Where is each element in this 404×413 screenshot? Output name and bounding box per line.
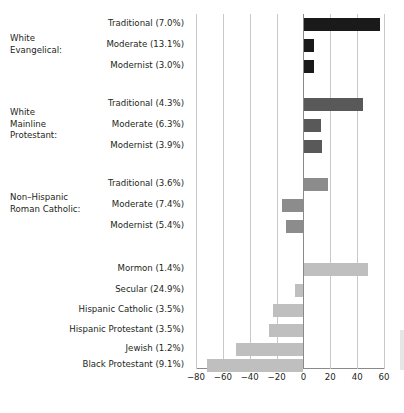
row-label: Modernist (5.4%) [110,220,184,231]
gridline [357,14,358,369]
row-label: Jewish (1.2%) [126,343,184,354]
x-tick-label: −60 [208,372,238,382]
row-label-column: Traditional (7.0%)Moderate (13.1%)Modern… [0,0,192,413]
bar [303,18,380,31]
row-label: Moderate (7.4%) [112,199,184,210]
x-tick-label: 20 [315,372,345,382]
bar [303,39,314,52]
gridline [250,14,251,369]
row-label: Hispanic Catholic (3.5%) [79,304,184,315]
bar [282,199,303,212]
row-label: Secular (24.9%) [115,284,184,295]
bar [273,304,304,317]
x-tick-label: 0 [288,372,318,382]
gridline [330,14,331,369]
bar [269,324,304,337]
scroll-edge-artifact [400,330,404,370]
row-label: Moderate (13.1%) [106,39,184,50]
zero-gridline [303,14,304,369]
gridline [196,14,197,369]
bar [207,359,304,372]
x-tick-label: 40 [342,372,372,382]
gridline [223,14,224,369]
bar-chart: WhiteEvangelical:WhiteMainlineProtestant… [0,0,404,413]
bar [303,178,327,191]
row-label: Hispanic Protestant (3.5%) [69,324,184,335]
row-label: Black Protestant (9.1%) [83,359,184,370]
bar [295,284,303,297]
row-label: Traditional (4.3%) [108,98,184,109]
x-tick-label: −40 [235,372,265,382]
row-label: Traditional (3.6%) [108,178,184,189]
row-label: Moderate (6.3%) [112,119,184,130]
bar [303,60,314,73]
row-label: Modernist (3.0%) [110,60,184,71]
row-label: Traditional (7.0%) [108,18,184,29]
bar [236,343,303,356]
x-tick-label: 60 [369,372,399,382]
row-label: Modernist (3.9%) [110,140,184,151]
bar [303,119,320,132]
bar [303,98,362,111]
bar [286,220,303,233]
plot-area [196,14,384,369]
row-label: Mormon (1.4%) [118,263,184,274]
bar [303,263,367,276]
bar [303,140,322,153]
gridline [384,14,385,369]
x-tick-label: −20 [262,372,292,382]
x-tick-label: −80 [181,372,211,382]
